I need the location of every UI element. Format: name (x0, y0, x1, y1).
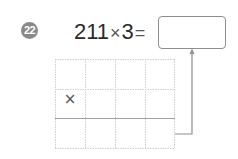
calculation-grid (0, 0, 238, 159)
grid-multiply-sign: × (63, 92, 77, 106)
arrow-line (175, 52, 192, 134)
arrow-head-icon (190, 49, 195, 55)
